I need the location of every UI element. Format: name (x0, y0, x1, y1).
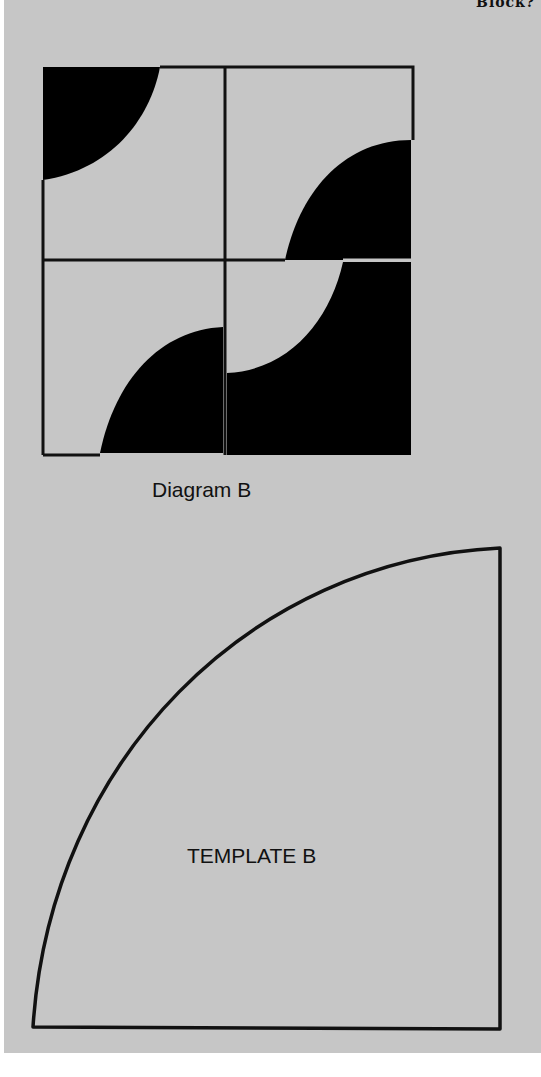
diagram-b-block (43, 67, 413, 455)
diagram-b-label: Diagram B (152, 478, 251, 502)
diagram-canvas (0, 0, 541, 1077)
br-black-fill (227, 262, 411, 455)
tr-black-arc (285, 140, 411, 260)
template-b-outline (33, 548, 500, 1029)
tl-black-arc (43, 67, 160, 180)
bl-black-arc (100, 327, 223, 453)
template-b-label: TEMPLATE B (187, 844, 316, 868)
